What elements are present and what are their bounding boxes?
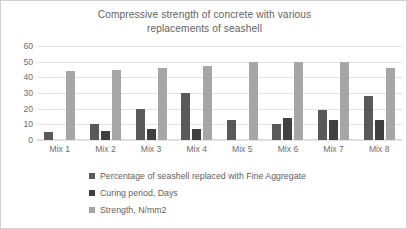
legend-swatch-icon xyxy=(89,173,95,179)
bar xyxy=(147,129,156,140)
x-axis-tick-label: Mix 5 xyxy=(220,144,266,154)
bar-group xyxy=(37,46,83,140)
bar xyxy=(90,124,99,140)
bar xyxy=(44,132,53,140)
y-axis-tick-label: 50 xyxy=(23,57,33,67)
bar xyxy=(66,71,75,140)
bar xyxy=(101,131,110,140)
x-axis-tick-label: Mix 1 xyxy=(37,144,83,154)
bar xyxy=(272,124,281,140)
x-axis-tick-label: Mix 3 xyxy=(128,144,174,154)
x-axis-tick-label: Mix 8 xyxy=(356,144,402,154)
legend-item[interactable]: Curing period, Days xyxy=(89,188,306,198)
y-axis-tick-label: 10 xyxy=(23,119,33,129)
bar xyxy=(227,120,236,140)
bar xyxy=(340,62,349,140)
bar xyxy=(329,120,338,140)
bar-group xyxy=(311,46,357,140)
bar-groups xyxy=(37,46,402,140)
chart-title: Compressive strength of concrete with va… xyxy=(1,8,407,36)
bar-group xyxy=(220,46,266,140)
bar xyxy=(158,68,167,140)
bar xyxy=(192,129,201,140)
x-axis-tick-label: Mix 2 xyxy=(83,144,129,154)
chart-title-line-1: Compressive strength of concrete with va… xyxy=(1,8,407,22)
legend-swatch-icon xyxy=(89,190,95,196)
x-axis-tick-labels: Mix 1Mix 2Mix 3Mix 4Mix 5Mix 6Mix 7Mix 8 xyxy=(37,144,402,154)
legend-label: Strength, N/mm2 xyxy=(100,205,167,215)
bar xyxy=(318,110,327,140)
y-axis-tick-label: 0 xyxy=(28,135,33,145)
bar-group xyxy=(83,46,129,140)
plot-area xyxy=(37,46,402,140)
bar xyxy=(112,70,121,141)
bar-group xyxy=(265,46,311,140)
bar xyxy=(136,109,145,140)
y-axis-tick-label: 40 xyxy=(23,72,33,82)
x-axis-tick-label: Mix 4 xyxy=(174,144,220,154)
y-axis-tick-labels: 6050403020100 xyxy=(1,46,33,140)
bar xyxy=(386,68,395,140)
legend-label: Percentage of seashell replaced with Fin… xyxy=(100,171,306,181)
bar-group xyxy=(174,46,220,140)
bar xyxy=(364,96,373,140)
x-axis-tick-label: Mix 6 xyxy=(265,144,311,154)
bar xyxy=(283,118,292,140)
chart-legend: Percentage of seashell replaced with Fin… xyxy=(89,171,306,215)
bar xyxy=(294,62,303,140)
bar xyxy=(249,62,258,140)
bar-group xyxy=(128,46,174,140)
x-axis-tick-label: Mix 7 xyxy=(311,144,357,154)
bar xyxy=(375,120,384,140)
legend-swatch-icon xyxy=(89,207,95,213)
gridline xyxy=(37,140,402,141)
chart-container: Compressive strength of concrete with va… xyxy=(0,0,407,229)
chart-title-line-2: replacements of seashell xyxy=(1,22,407,36)
y-axis-tick-label: 30 xyxy=(23,88,33,98)
y-axis-tick-label: 60 xyxy=(23,41,33,51)
legend-item[interactable]: Percentage of seashell replaced with Fin… xyxy=(89,171,306,181)
bar xyxy=(181,93,190,140)
y-axis-tick-label: 20 xyxy=(23,104,33,114)
legend-item[interactable]: Strength, N/mm2 xyxy=(89,205,306,215)
legend-label: Curing period, Days xyxy=(100,188,178,198)
bar xyxy=(203,66,212,140)
bar-group xyxy=(356,46,402,140)
